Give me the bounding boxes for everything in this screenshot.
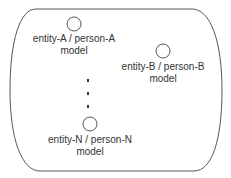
node-n-label: entity-N / person-N model bbox=[40, 134, 140, 158]
node-b-circle bbox=[156, 44, 170, 58]
node-a-label-line2: model bbox=[24, 45, 124, 57]
node-a-label: entity-A / person-A model bbox=[24, 33, 124, 57]
node-n-circle bbox=[83, 117, 97, 131]
node-b-label: entity-B / person-B model bbox=[113, 61, 213, 85]
node-n-label-line2: model bbox=[40, 146, 140, 158]
node-a-circle bbox=[67, 17, 81, 31]
node-b-label-line1: entity-B / person-B bbox=[113, 61, 213, 73]
node-b-label-line2: model bbox=[113, 73, 213, 85]
node-a-label-line1: entity-A / person-A bbox=[24, 33, 124, 45]
ellipsis-dots bbox=[87, 79, 89, 108]
node-n-label-line1: entity-N / person-N bbox=[40, 134, 140, 146]
